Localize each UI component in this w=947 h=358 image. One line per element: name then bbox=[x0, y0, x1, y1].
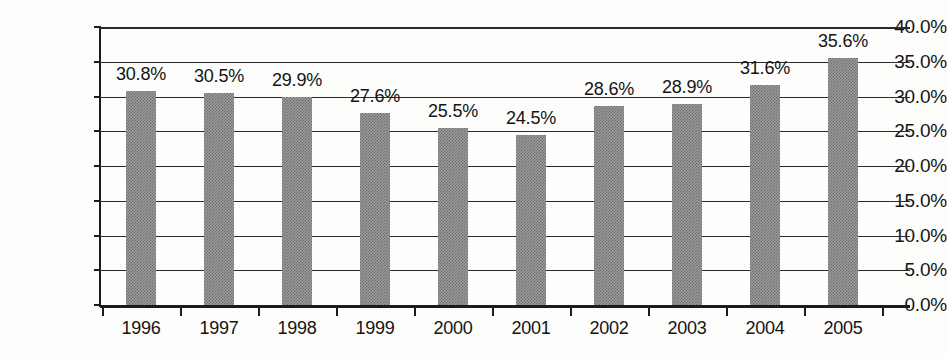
bar-value-label: 24.5% bbox=[486, 108, 576, 129]
bar-value-label: 31.6% bbox=[720, 58, 810, 79]
bar-value-label: 27.6% bbox=[330, 86, 420, 107]
bar bbox=[516, 135, 546, 305]
x-axis-category-label: 1997 bbox=[174, 318, 264, 339]
x-axis-tick-mark bbox=[336, 305, 338, 316]
x-axis-category-label: 2001 bbox=[486, 318, 576, 339]
x-axis-category-label: 1998 bbox=[252, 318, 342, 339]
bar bbox=[282, 97, 312, 305]
x-axis-category-label: 2002 bbox=[564, 318, 654, 339]
x-axis-tick-mark bbox=[804, 305, 806, 316]
x-axis-tick-mark bbox=[180, 305, 182, 316]
bar bbox=[750, 85, 780, 305]
x-axis-tick-mark bbox=[570, 305, 572, 316]
x-axis-category-label: 1996 bbox=[96, 318, 186, 339]
bar bbox=[828, 58, 858, 305]
x-axis-category-label: 2005 bbox=[798, 318, 888, 339]
x-axis-category-label: 2000 bbox=[408, 318, 498, 339]
bar-value-label: 28.9% bbox=[642, 77, 732, 98]
x-axis-tick-mark bbox=[882, 305, 884, 316]
bar bbox=[126, 91, 156, 305]
x-axis-tick-mark bbox=[648, 305, 650, 316]
bar-value-label: 25.5% bbox=[408, 101, 498, 122]
x-axis-category-label: 2004 bbox=[720, 318, 810, 339]
x-axis-tick-mark bbox=[414, 305, 416, 316]
bar-value-label: 29.9% bbox=[252, 70, 342, 91]
bar-value-label: 28.6% bbox=[564, 79, 654, 100]
x-axis-category-label: 2003 bbox=[642, 318, 732, 339]
bar bbox=[204, 93, 234, 305]
chart-figure: 0.0%5.0%10.0%15.0%20.0%25.0%30.0%35.0%40… bbox=[0, 0, 947, 358]
x-axis-category-label: 1999 bbox=[330, 318, 420, 339]
bar bbox=[360, 113, 390, 305]
x-axis-tick-mark bbox=[726, 305, 728, 316]
x-axis-tick-mark bbox=[492, 305, 494, 316]
bar bbox=[594, 106, 624, 305]
bar-value-label: 30.5% bbox=[174, 66, 264, 87]
bar bbox=[672, 104, 702, 305]
x-axis-tick-mark bbox=[258, 305, 260, 316]
gridline bbox=[100, 27, 910, 29]
bar bbox=[438, 128, 468, 305]
bar-value-label: 30.8% bbox=[96, 64, 186, 85]
x-axis-baseline bbox=[100, 305, 910, 308]
x-axis-tick-mark bbox=[102, 305, 104, 316]
bar-value-label: 35.6% bbox=[798, 31, 888, 52]
